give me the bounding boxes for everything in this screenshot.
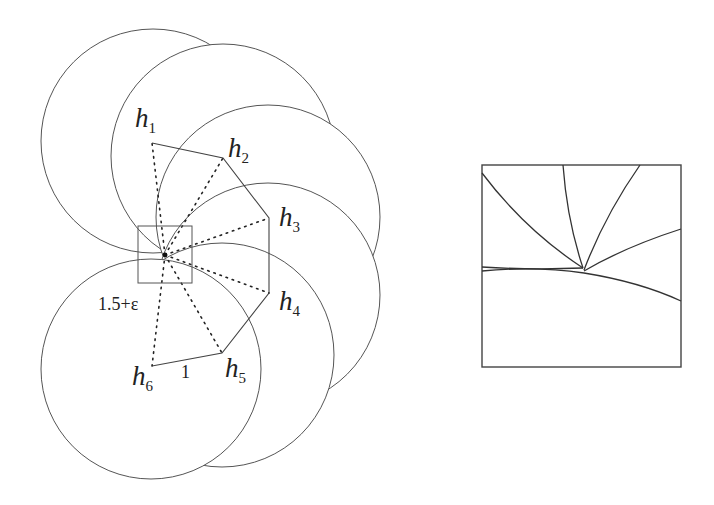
magnified-view [482,165,681,367]
magnified-arc-2 [563,165,583,268]
circles [41,29,380,479]
center-point [163,253,168,258]
magnified-arc-7 [482,269,584,273]
radius-length-label: 1.5+ε [98,294,139,314]
magnified-arc-1 [482,173,583,268]
magnified-arc-5 [584,273,681,301]
diagram-canvas: h1 h2 h3 h4 h5 h6 1.5+ε 1 [0,0,714,505]
edge-length-label: 1 [181,362,190,382]
magnified-arc-3 [584,165,640,270]
magnified-box [482,165,681,367]
